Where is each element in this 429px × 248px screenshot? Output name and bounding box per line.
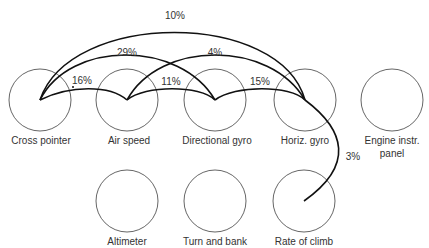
instrument-turn-and-bank: Turn and bank <box>183 170 248 247</box>
link-cross-pointer-air-speed <box>40 89 127 100</box>
link-16-dot <box>72 86 74 88</box>
link-cross-pointer-directional-gyro <box>40 55 215 100</box>
link-diagram: Cross pointer Air speed Directional gyro… <box>0 0 429 248</box>
link-pct-29: 29% <box>117 47 137 58</box>
instrument-engine-panel: Engine instr. panel <box>361 69 423 159</box>
link-pct-16: 16% <box>72 75 92 86</box>
instrument-horiz-gyro: Horiz. gyro <box>274 69 336 146</box>
link-pct-3: 3% <box>346 151 361 162</box>
engine-panel-dial <box>361 69 423 131</box>
directional-gyro-label: Directional gyro <box>182 135 252 146</box>
horiz-gyro-label: Horiz. gyro <box>281 135 330 146</box>
link-pct-4: 4% <box>208 47 223 58</box>
turn-and-bank-dial <box>184 170 246 232</box>
air-speed-label: Air speed <box>108 135 150 146</box>
altimeter-label: Altimeter <box>107 236 147 247</box>
turn-and-bank-label: Turn and bank <box>183 236 248 247</box>
instrument-air-speed: Air speed <box>96 69 158 146</box>
engine-panel-label-line1: Engine instr. <box>364 135 419 146</box>
link-directional-gyro-horiz-gyro <box>215 89 305 100</box>
link-pct-15: 15% <box>250 76 270 87</box>
link-pct-10: 10% <box>165 10 185 21</box>
altimeter-dial <box>96 170 158 232</box>
link-horiz-gyro-rate-of-climb <box>304 100 339 201</box>
link-air-speed-directional-gyro <box>127 89 215 100</box>
instrument-cross-pointer: Cross pointer <box>9 69 71 146</box>
instrument-altimeter: Altimeter <box>96 170 158 247</box>
engine-panel-label-line2: panel <box>380 148 404 159</box>
link-pct-11: 11% <box>161 76 180 87</box>
cross-pointer-label: Cross pointer <box>11 135 71 146</box>
instrument-directional-gyro: Directional gyro <box>182 69 252 146</box>
rate-of-climb-label: Rate of climb <box>275 236 334 247</box>
